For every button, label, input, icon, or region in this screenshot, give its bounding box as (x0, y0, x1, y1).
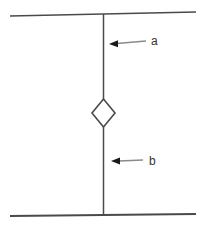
arrow-a-left-arrowhead-icon (109, 40, 118, 47)
arrow-a: a (109, 34, 158, 48)
arrow-b-shaft (119, 160, 143, 161)
label-a: a (151, 34, 158, 48)
diamond-node (92, 99, 115, 127)
diagram-canvas: a b (0, 0, 206, 225)
arrow-b: b (111, 154, 156, 168)
arrow-a-shaft (117, 41, 146, 44)
arrow-b-left-arrowhead-icon (111, 157, 120, 164)
label-b: b (149, 154, 156, 168)
diagram-figure: a b (0, 0, 206, 225)
